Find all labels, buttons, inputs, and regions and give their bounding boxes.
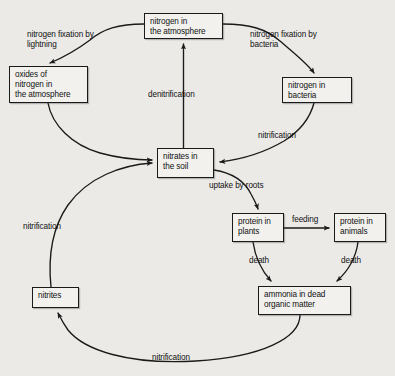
node-nitrogen-in-the-atmosphere: nitrogen in the atmosphere [144, 13, 223, 39]
edge-label-death-animals: death [341, 256, 381, 266]
node-protein-in-animals: protein in animals [334, 213, 386, 242]
edge-oxides-to-nitrates [48, 103, 152, 160]
node-nitrates-in-the-soil: nitrates in the soil [157, 148, 214, 178]
node-nitrites: nitrites [32, 287, 79, 308]
node-label: nitrogen in bacteria [288, 81, 325, 100]
node-label: ammonia in dead organic matter [264, 290, 325, 309]
node-nitrogen-in-bacteria: nitrogen in bacteria [282, 77, 352, 103]
node-label: nitrites [38, 291, 61, 300]
node-protein-in-plants: protein in plants [232, 213, 284, 242]
nitrogen-cycle-diagram [0, 0, 395, 376]
edge-label-feeding: feeding [292, 215, 338, 225]
node-oxides-of-nitrogen-in-the-atmosphere: oxides of nitrogen in the atmosphere [9, 66, 88, 103]
node-ammonia-in-dead-organic-matter: ammonia in dead organic matter [258, 286, 351, 315]
edge-label-uptake-by-roots: uptake by roots [209, 181, 299, 191]
edge-label-nitrification-left: nitrification [23, 222, 95, 232]
node-label: protein in animals [340, 217, 373, 236]
edge-label-nitrification-bacteria: nitrification [258, 131, 338, 141]
node-label: nitrogen in the atmosphere [150, 17, 206, 36]
edge-label-denitrification: denitrification [148, 90, 228, 100]
node-label: oxides of nitrogen in the atmosphere [15, 70, 71, 99]
node-label: nitrates in the soil [163, 152, 197, 171]
edge-label-nitrification-bottom: nitrification [152, 353, 232, 363]
edge-label-nitrogen-fixation-by-lightning: nitrogen fixation by lightning [27, 30, 147, 50]
edge-label-death-plants: death [249, 256, 289, 266]
edge-label-nitrogen-fixation-by-bacteria: nitrogen fixation by bacteria [250, 30, 370, 50]
node-label: protein in plants [238, 217, 271, 236]
